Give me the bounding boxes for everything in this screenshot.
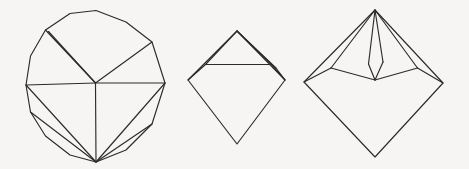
polyhedra-diagram xyxy=(0,0,469,169)
shape-left-decagon-crease-5 xyxy=(96,83,97,162)
shape-layer xyxy=(26,10,443,162)
figure-canvas: Three folded polyhedral nets Line drawin… xyxy=(0,0,469,169)
